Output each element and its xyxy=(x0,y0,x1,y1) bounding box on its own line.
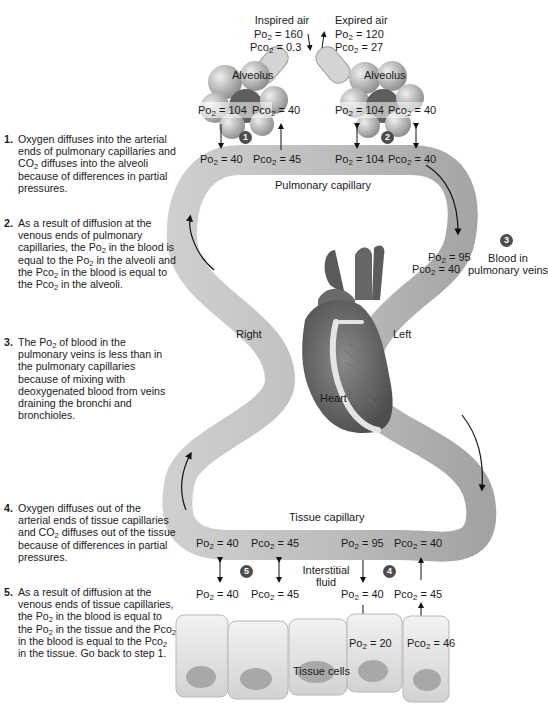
inspired-po2: Po2 = 160 xyxy=(254,28,303,40)
inspired-pco2: Pco2 = 0.3 xyxy=(250,41,301,53)
step-badge-1: 1 xyxy=(239,131,252,144)
tissue-arterial-pco2: Pco2 = 40 xyxy=(394,537,442,549)
step-4-text: 4. Oxygen diffuses out of the arterial e… xyxy=(4,502,176,563)
left-side-label: Left xyxy=(393,328,411,340)
alveolus-left-label: Alveolus xyxy=(232,69,274,81)
alveolus-left-po2: Po2 = 104 xyxy=(198,104,247,116)
pulmonary-capillary-label: Pulmonary capillary xyxy=(275,179,371,191)
pulmonary-venous-po2: Po2 = 104 xyxy=(335,153,384,165)
step-badge-2: 2 xyxy=(381,131,394,144)
pulmonary-venous-pco2: Pco2 = 40 xyxy=(388,153,436,165)
tissue-venous-pco2: Pco2 = 45 xyxy=(251,537,299,549)
tissue-cells-po2: Po2 = 20 xyxy=(349,637,392,649)
step-3-text: 3. The Po2 of blood in the pulmonary vei… xyxy=(4,336,176,421)
step-badge-3: 3 xyxy=(500,234,513,247)
pulmonary-arterial-pco2: Pco2 = 45 xyxy=(253,153,301,165)
expired-po2: Po2 = 120 xyxy=(335,28,384,40)
interstitial-left-pco2: Pco2 = 45 xyxy=(251,588,299,600)
alveolus-right-pco2: Pco2 = 40 xyxy=(388,104,436,116)
tissue-cells-illustration xyxy=(176,614,449,702)
step-2-text: 2. As a result of diffusion at the venou… xyxy=(4,217,176,290)
alveolus-left-illustration xyxy=(200,43,292,139)
pulmonary-arterial-po2: Po2 = 40 xyxy=(200,153,243,165)
tissue-arterial-po2: Po2 = 95 xyxy=(341,537,384,549)
heart-label: Heart xyxy=(320,392,347,404)
alveolus-right-label: Alveolus xyxy=(364,69,406,81)
alveolus-right-illustration xyxy=(312,43,424,138)
interstitial-right-pco2: Pco2 = 45 xyxy=(394,588,442,600)
inspired-air-label: Inspired air xyxy=(244,14,320,26)
pulmonary-veins-pco2: Pco2 = 40 xyxy=(412,263,460,275)
right-side-label: Right xyxy=(236,328,262,340)
step-5-text: 5. As a result of diffusion at the venou… xyxy=(4,586,176,659)
tissue-cells-label: Tissue cells xyxy=(293,665,350,677)
tissue-venous-po2: Po2 = 40 xyxy=(196,537,239,549)
interstitial-fluid-label: Interstitial fluid xyxy=(296,564,356,588)
expired-air-label: Expired air xyxy=(335,14,388,26)
pulmonary-veins-label: Blood in pulmonary veins xyxy=(468,252,548,276)
step-1-text: 1. Oxygen diffuses into the arterial end… xyxy=(4,133,176,194)
interstitial-left-po2: Po2 = 40 xyxy=(196,588,239,600)
interstitial-right-po2: Po2 = 40 xyxy=(341,588,384,600)
tissue-capillary-label: Tissue capillary xyxy=(289,511,364,523)
alveolus-left-pco2: Pco2 = 40 xyxy=(252,104,300,116)
step-badge-4: 4 xyxy=(383,565,396,578)
alveolus-right-po2: Po2 = 104 xyxy=(335,104,384,116)
step-badge-5: 5 xyxy=(240,565,253,578)
pulmonary-veins-po2: Po2 = 95 xyxy=(428,251,471,263)
heart-illustration xyxy=(302,246,392,433)
tissue-cells-pco2: Pco2 = 46 xyxy=(407,637,455,649)
expired-pco2: Pco2 = 27 xyxy=(335,41,383,53)
